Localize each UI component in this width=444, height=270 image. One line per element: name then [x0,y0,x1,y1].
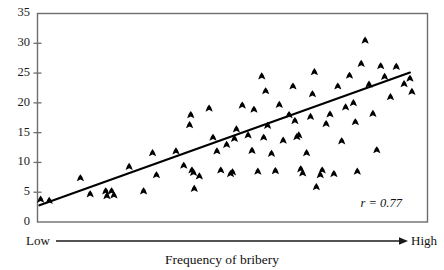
data-point [239,101,246,108]
data-point [140,187,147,194]
data-point [323,120,330,127]
data-point [268,150,275,157]
data-point [307,113,314,120]
regression-trendline [39,72,410,205]
data-point [358,60,365,67]
data-point [172,147,179,154]
y-tick-label-5: 5 [24,184,30,198]
data-point [209,134,216,141]
data-point [401,80,408,87]
data-point [303,149,310,156]
plot-frame [38,14,428,223]
data-points [37,37,415,204]
x-axis-title: Frequency of bribery [165,252,279,267]
data-point [272,167,279,174]
data-point [180,162,187,169]
data-point [354,168,361,175]
x-axis-low-label: Low [26,233,50,248]
data-point [346,72,353,79]
data-point [187,111,194,118]
y-tick-label-30: 30 [18,35,31,49]
data-point [250,106,257,113]
data-point [352,118,359,125]
data-point [217,166,224,173]
data-point [223,141,230,148]
data-point [330,170,337,177]
data-point [393,63,400,70]
data-point [149,149,156,156]
data-point [313,183,320,190]
data-point [342,103,349,110]
data-point [248,147,255,154]
y-tick-label-15: 15 [18,125,31,139]
data-point [362,37,369,44]
data-point [206,104,213,111]
y-tick-label-25: 25 [18,65,31,79]
data-point [87,190,94,197]
data-point [408,88,415,95]
data-point [196,172,203,179]
arrow-right-icon [399,237,408,245]
correlation-annotation: r = 0.77 [361,196,403,210]
data-point [289,82,296,89]
data-point [276,101,283,108]
data-point [326,110,333,117]
data-point [213,147,220,154]
data-point [309,90,316,97]
data-point [77,174,84,181]
x-axis-high-label: High [411,233,438,248]
data-point [126,163,133,170]
data-point [373,146,380,153]
data-point [387,93,394,100]
data-point [102,187,109,194]
data-point [319,166,326,173]
data-point [262,87,269,94]
scatter-plot-figure: 05101520253035 r = 0.77 Low High Frequen… [0,0,444,270]
data-point [260,134,267,141]
y-tick-label-20: 20 [18,95,31,109]
data-point [191,185,198,192]
data-point [280,137,287,144]
y-tick-label-0: 0 [24,214,30,228]
data-point [377,62,384,69]
data-point [381,73,388,80]
y-tick-label-10: 10 [18,154,31,168]
data-point [369,110,376,117]
data-point [406,75,413,82]
data-point [186,121,193,128]
data-point [258,72,265,79]
data-point [350,99,357,106]
y-axis-tick-labels: 05101520253035 [18,5,31,228]
data-point [233,125,240,132]
y-tick-label-35: 35 [18,5,31,19]
data-point [311,68,318,75]
data-point [254,168,261,175]
data-point [153,171,160,178]
data-point [338,137,345,144]
data-point [334,82,341,89]
chart-canvas: 05101520253035 r = 0.77 Low High Frequen… [0,0,444,270]
